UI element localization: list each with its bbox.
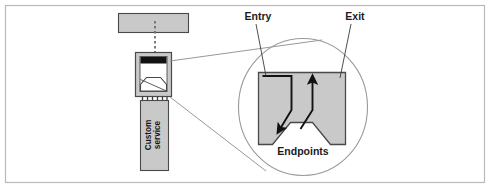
top-module-rectangle xyxy=(119,14,189,33)
figure-canvas: Custom service Entry Exit Endpoints xyxy=(0,0,491,189)
custom-service-label-line1: Custom xyxy=(144,120,153,150)
connector-contact-bar xyxy=(141,57,167,64)
figure-frame xyxy=(6,6,485,183)
exit-label: Exit xyxy=(345,10,365,22)
entry-label: Entry xyxy=(245,10,272,22)
diagram-svg: Custom service Entry Exit Endpoints xyxy=(0,0,491,189)
custom-service-label-line2: service xyxy=(153,120,162,149)
endpoints-label: Endpoints xyxy=(277,145,328,157)
